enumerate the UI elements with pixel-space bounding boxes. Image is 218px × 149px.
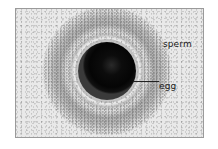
label-sperm: sperm bbox=[163, 40, 192, 49]
micrograph-frame: sperm egg bbox=[15, 8, 204, 138]
label-egg: egg bbox=[159, 82, 176, 91]
egg-leader-line bbox=[134, 81, 159, 82]
egg-cell bbox=[78, 42, 136, 100]
